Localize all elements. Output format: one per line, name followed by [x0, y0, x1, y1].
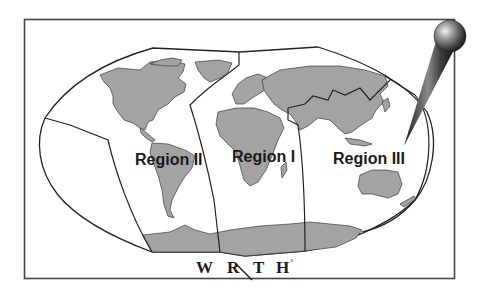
australia	[358, 170, 402, 198]
logo-letter-t: T	[253, 258, 265, 277]
region-ii-label: Region II	[135, 151, 203, 168]
logo-letter-r: R	[227, 258, 240, 277]
region-i-label: Region I	[232, 148, 295, 165]
region-iii-label: Region III	[333, 150, 405, 167]
world-map-figure: Region II Region I Region III W R T H °	[0, 0, 492, 297]
logo-letter-w: W	[196, 258, 213, 277]
logo-letter-h: H	[276, 258, 289, 277]
logo-mark: °	[290, 258, 293, 267]
